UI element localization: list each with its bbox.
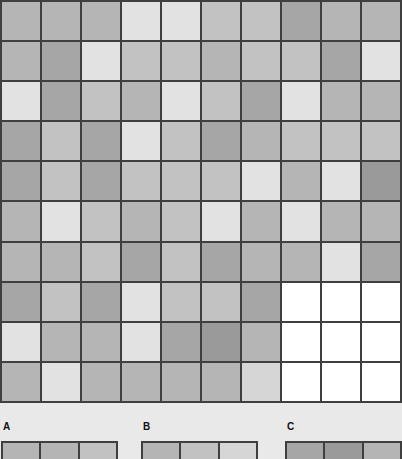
grid-cell <box>162 82 200 120</box>
grid-cell <box>362 202 400 240</box>
grid-cell <box>242 2 280 40</box>
grid-cell <box>82 202 120 240</box>
grid-cell <box>202 122 240 160</box>
grid-cell <box>162 363 200 401</box>
grid-cell <box>242 363 280 401</box>
grid-cell <box>41 443 77 459</box>
grid-cell <box>202 363 240 401</box>
grid-cell <box>122 243 160 281</box>
grid-cell <box>242 283 280 321</box>
grid-cell <box>282 162 320 200</box>
grid-cell <box>82 2 120 40</box>
grid-cell <box>2 2 40 40</box>
grid-cell <box>122 122 160 160</box>
grid-cell <box>242 243 280 281</box>
option-a-label: A <box>3 421 119 432</box>
grid-cell <box>82 162 120 200</box>
grid-cell <box>162 2 200 40</box>
grid-cell <box>2 243 40 281</box>
grid-cell <box>325 443 361 459</box>
grid-cell <box>242 42 280 80</box>
grid-cell <box>42 363 80 401</box>
grid-cell <box>162 202 200 240</box>
grid-cell <box>362 162 400 200</box>
grid-cell <box>202 283 240 321</box>
missing-cell <box>362 323 400 361</box>
option-grid-a[interactable] <box>1 441 118 459</box>
grid-cell <box>202 2 240 40</box>
grid-cell <box>122 283 160 321</box>
option-b-label: B <box>143 421 259 432</box>
grid-cell <box>322 243 360 281</box>
grid-cell <box>202 202 240 240</box>
grid-cell <box>242 202 280 240</box>
grid-cell <box>220 443 256 459</box>
grid-cell <box>82 283 120 321</box>
grid-cell <box>282 2 320 40</box>
grid-cell <box>322 162 360 200</box>
grid-cell <box>282 202 320 240</box>
grid-cell <box>181 443 217 459</box>
option-grid-b[interactable] <box>141 441 258 459</box>
answer-option-a[interactable]: A <box>1 421 119 459</box>
grid-cell <box>202 42 240 80</box>
grid-cell <box>3 443 39 459</box>
grid-cell <box>122 162 160 200</box>
grid-cell <box>362 122 400 160</box>
puzzle-grid <box>0 0 402 403</box>
grid-cell <box>42 2 80 40</box>
grid-cell <box>287 443 323 459</box>
grid-cell <box>242 162 280 200</box>
grid-cell <box>122 323 160 361</box>
grid-cell <box>362 82 400 120</box>
grid-cell <box>202 243 240 281</box>
grid-cell <box>322 82 360 120</box>
grid-cell <box>2 363 40 401</box>
grid-cell <box>122 363 160 401</box>
grid-cell <box>322 122 360 160</box>
grid-cell <box>162 122 200 160</box>
grid-cell <box>42 82 80 120</box>
missing-cell <box>282 283 320 321</box>
grid-cell <box>42 42 80 80</box>
grid-cell <box>82 122 120 160</box>
grid-cell <box>282 82 320 120</box>
grid-cell <box>82 82 120 120</box>
grid-cell <box>162 283 200 321</box>
grid-cell <box>42 283 80 321</box>
grid-cell <box>80 443 116 459</box>
grid-cell <box>362 243 400 281</box>
missing-cell <box>282 363 320 401</box>
grid-cell <box>42 202 80 240</box>
missing-cell <box>362 363 400 401</box>
grid-cell <box>282 122 320 160</box>
grid-cell <box>122 82 160 120</box>
option-grid-c[interactable] <box>285 441 402 459</box>
grid-cell <box>202 162 240 200</box>
answer-option-b[interactable]: B <box>141 421 259 459</box>
missing-cell <box>322 363 360 401</box>
grid-cell <box>82 363 120 401</box>
grid-cell <box>362 42 400 80</box>
grid-cell <box>143 443 179 459</box>
missing-cell <box>362 283 400 321</box>
grid-cell <box>2 122 40 160</box>
grid-cell <box>202 82 240 120</box>
grid-cell <box>282 42 320 80</box>
grid-cell <box>162 42 200 80</box>
grid-cell <box>282 243 320 281</box>
grid-cell <box>2 82 40 120</box>
puzzle-canvas: A B C <box>0 0 402 459</box>
grid-cell <box>122 202 160 240</box>
grid-cell <box>82 42 120 80</box>
grid-cell <box>162 323 200 361</box>
grid-cell <box>362 2 400 40</box>
grid-cell <box>42 243 80 281</box>
grid-cell <box>242 323 280 361</box>
grid-cell <box>42 122 80 160</box>
grid-cell <box>2 162 40 200</box>
grid-cell <box>364 443 400 459</box>
answer-option-c[interactable]: C <box>285 421 402 459</box>
missing-cell <box>322 283 360 321</box>
grid-cell <box>122 2 160 40</box>
